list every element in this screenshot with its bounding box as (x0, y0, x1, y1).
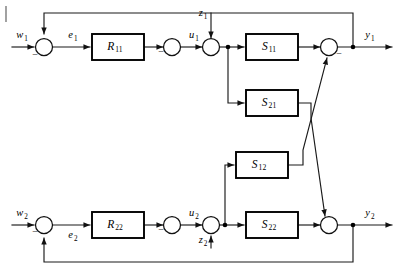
signal-label-w2: w2 (16, 207, 28, 220)
junction-circle (321, 217, 338, 234)
branch-nodes-layer (223, 45, 356, 228)
block-s12[interactable]: S12 (236, 152, 288, 178)
junction-circle (203, 217, 220, 234)
junction-circle (36, 39, 53, 56)
junction-sign: − (336, 48, 342, 59)
wire-u1-branch-to-S21 (228, 47, 244, 103)
summing-junction-z1[interactable] (203, 39, 220, 56)
block-s21[interactable]: S21 (246, 90, 298, 116)
branch-node-y2 (351, 223, 356, 228)
junction-circle (164, 39, 181, 56)
signal-label-w1: w1 (16, 29, 28, 42)
branch-node-y1 (351, 45, 356, 50)
block-s11[interactable]: S11 (246, 34, 298, 60)
summing-junction-e1[interactable]: − (158, 39, 180, 58)
summing-junction-e2[interactable]: − (158, 217, 180, 236)
signal-label-z2: z2 (198, 234, 208, 247)
signal-label-y2: y2 (364, 207, 375, 220)
wire-u2-branch-to-S12 (225, 165, 234, 225)
block-r11[interactable]: R11 (92, 34, 144, 60)
signal-label-u2: u2 (189, 207, 199, 220)
junction-circle (203, 39, 220, 56)
block-diagram-figure: R11S11S21S12R22S22 −−−−− w1e1u1z1y1w2e2u… (0, 0, 400, 274)
junction-sign: − (32, 226, 38, 237)
junction-sign: − (32, 49, 38, 60)
signal-label-y1: y1 (364, 29, 375, 42)
summing-junction-w1[interactable]: − (32, 39, 52, 61)
branch-node-u1-branch (226, 45, 231, 50)
summing-junctions-layer: −−−−− (32, 39, 342, 238)
signal-label-u1: u1 (189, 29, 199, 42)
junction-sign: − (158, 224, 164, 235)
block-diagram-canvas: R11S11S21S12R22S22 −−−−− w1e1u1z1y1w2e2u… (0, 0, 400, 274)
blocks-layer: R11S11S21S12R22S22 (92, 34, 298, 238)
summing-junction-y1[interactable]: − (321, 39, 343, 60)
cross-coupling-S21-to-sum-y2 (298, 103, 325, 216)
junction-circle (164, 217, 181, 234)
signal-label-z1: z1 (198, 7, 208, 20)
signal-label-e2: e2 (68, 229, 78, 242)
block-r22[interactable]: R22 (92, 212, 144, 238)
junction-circle (36, 217, 53, 234)
summing-junction-w2[interactable]: − (32, 217, 52, 238)
junction-sign: − (158, 46, 164, 57)
summing-junction-z2[interactable] (203, 217, 220, 234)
signal-label-e1: e1 (68, 29, 78, 42)
junction-circle (321, 39, 338, 56)
block-s22[interactable]: S22 (246, 212, 298, 238)
summing-junction-y2[interactable] (321, 217, 338, 234)
branch-node-u2-branch (223, 223, 228, 228)
